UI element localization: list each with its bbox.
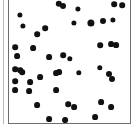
scatter-point [113,42,119,48]
scatter-point [14,53,20,59]
scatter-point [53,70,59,76]
scatter-point [17,12,22,17]
scatter-point [37,74,43,80]
scatter-point [109,76,115,82]
scatter-point [46,54,52,60]
scatter-point [98,99,104,105]
scatter-point [92,114,98,120]
scatter-plot-figure [0,0,139,131]
scatter-point [71,20,76,25]
scatter-point [67,56,72,61]
scatter-point [12,44,18,50]
scatter-point [62,117,68,123]
scatter-points-layer [9,0,130,123]
scatter-point [20,23,25,28]
scatter-point [76,70,81,75]
scatter-point [34,102,40,108]
left-guide-rule [3,0,4,124]
scatter-point [53,87,59,93]
scatter-point [100,18,106,24]
scatter-point [65,101,71,107]
scatter-point [87,19,94,26]
scatter-point [60,52,66,58]
scatter-point [17,67,23,73]
scatter-point [75,6,80,11]
scatter-point [108,104,114,110]
scatter-point [30,45,36,51]
scatter-point [110,17,115,22]
scatter-point [27,79,33,85]
scatter-point [46,116,52,122]
scatter-point [12,78,18,84]
scatter-point [119,2,125,8]
scatter-point [111,1,117,7]
scatter-point [26,88,32,94]
scatter-point [97,65,102,70]
scatter-point [42,25,48,31]
scatter-point [60,3,66,9]
scatter-point [12,87,18,93]
scatter-point [34,31,40,37]
scatter-point [71,104,77,110]
scatter-point [97,42,103,48]
plot-panel [8,0,131,124]
